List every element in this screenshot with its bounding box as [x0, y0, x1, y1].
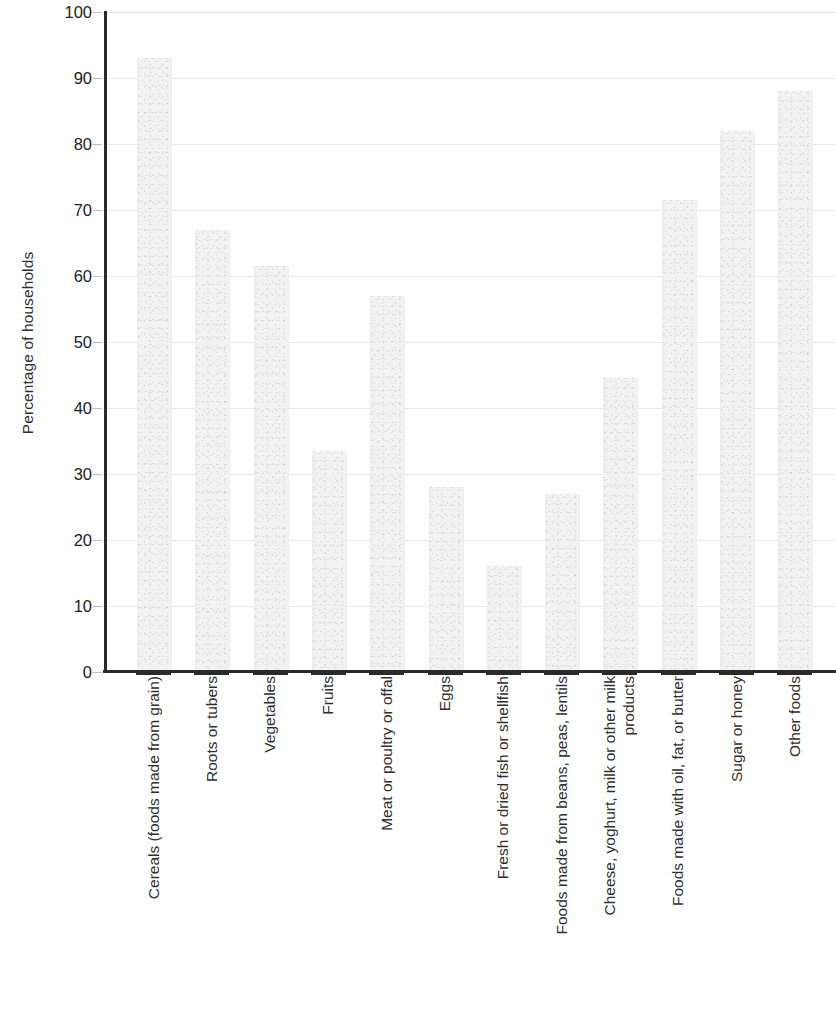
bar-chart-figure: Percentage of households 100908070605040…: [0, 0, 836, 1015]
x-label-slot: Cheese, yoghurt, milk or other milk prod…: [603, 676, 636, 1015]
x-tick-label: Eggs: [436, 676, 455, 711]
y-tick-label: 20: [38, 532, 92, 549]
x-tick-label: Vegetables: [261, 676, 280, 753]
x-axis-spine: [103, 670, 836, 673]
y-axis-spine: [104, 11, 107, 673]
x-label-slot: Foods made from beans, peas, lentils: [545, 676, 578, 1015]
x-tick-label: Other foods: [785, 676, 804, 757]
bar: [720, 131, 755, 672]
x-tick-label: Sugar or honey: [727, 676, 746, 782]
gridline: [104, 78, 836, 79]
bar: [603, 378, 638, 672]
x-label-slot: Fresh or dried fish or shellfish: [487, 676, 520, 1015]
bar: [545, 494, 580, 672]
y-tick-mark: [93, 672, 102, 673]
y-tick-mark: [93, 342, 102, 343]
y-axis-tick-labels: 1009080706050403020100: [30, 0, 92, 684]
y-tick-mark: [93, 144, 102, 145]
x-tick-label: Cereals (foods made from grain): [144, 676, 163, 899]
y-tick-mark: [93, 474, 102, 475]
y-tick-mark: [93, 606, 102, 607]
y-tick-mark: [93, 210, 102, 211]
bar: [370, 296, 405, 672]
y-tick-label: 60: [38, 268, 92, 285]
bar: [195, 230, 230, 672]
y-tick-label: 30: [38, 466, 92, 483]
y-tick-label: 100: [38, 4, 92, 21]
y-tick-mark: [93, 408, 102, 409]
x-tick-label: Fruits: [319, 676, 338, 715]
y-tick-mark: [93, 540, 102, 541]
x-label-slot: Foods made with oil, fat, or butter: [662, 676, 695, 1015]
bar: [662, 200, 697, 672]
x-label-slot: Vegetables: [254, 676, 287, 1015]
x-tick-label: Foods made from beans, peas, lentils: [552, 676, 571, 934]
x-tick-label: Foods made with oil, fat, or butter: [669, 676, 688, 906]
y-tick-mark: [93, 78, 102, 79]
y-tick-label: 80: [38, 136, 92, 153]
gridline: [104, 12, 836, 13]
bar: [778, 91, 813, 672]
x-label-slot: Eggs: [429, 676, 462, 1015]
y-tick-label: 10: [38, 598, 92, 615]
x-label-slot: Sugar or honey: [720, 676, 753, 1015]
y-tick-label: 70: [38, 202, 92, 219]
y-tick-label: 0: [38, 664, 92, 681]
x-label-slot: Cereals (foods made from grain): [137, 676, 170, 1015]
y-tick-label: 40: [38, 400, 92, 417]
plot-area: [104, 12, 836, 672]
x-axis-tick-labels: Cereals (foods made from grain)Roots or …: [104, 676, 836, 1015]
y-tick-label: 50: [38, 334, 92, 351]
bar: [429, 487, 464, 672]
bar: [487, 566, 522, 672]
x-label-slot: Roots or tubers: [195, 676, 228, 1015]
x-tick-label: Cheese, yoghurt, milk or other milk prod…: [601, 676, 639, 976]
x-tick-label: Fresh or dried fish or shellfish: [494, 676, 513, 879]
x-label-slot: Meat or poultry or offal: [370, 676, 403, 1015]
y-tick-mark: [93, 276, 102, 277]
bar: [254, 266, 289, 672]
bar: [312, 451, 347, 672]
bar: [137, 58, 172, 672]
x-label-slot: Fruits: [312, 676, 345, 1015]
y-tick-mark: [93, 12, 102, 13]
x-tick-label: Meat or poultry or offal: [377, 676, 396, 831]
x-tick-label: Roots or tubers: [202, 676, 221, 782]
y-tick-label: 90: [38, 70, 92, 87]
x-label-slot: Other foods: [778, 676, 811, 1015]
